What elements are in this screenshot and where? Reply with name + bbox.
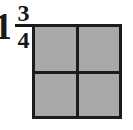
fraction-denominator: 4 [15,28,32,51]
square-quadrant-top-right [77,27,119,72]
mixed-number: 1 3 4 [0,0,32,50]
square-quadrant-top-left [35,27,77,72]
fraction: 3 4 [15,1,32,48]
fraction-numerator: 3 [15,1,32,24]
square-quadrant-bottom-right [77,72,119,117]
whole-number-digit: 1 [0,8,10,46]
square-divider-horizontal [35,71,119,74]
square-quadrant-bottom-left [35,72,77,117]
fraction-diagram-image: 1 3 4 [0,0,133,130]
partitioned-square [32,24,122,119]
